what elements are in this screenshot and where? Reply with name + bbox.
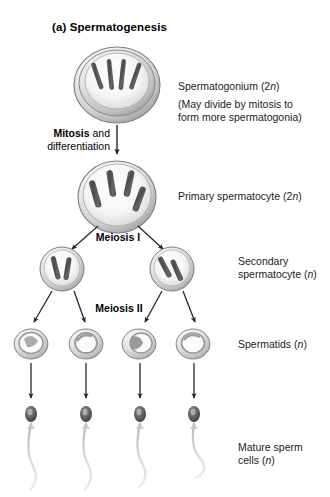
label-mature-sperm: Mature spermcells (n) xyxy=(238,441,303,466)
label-spermatogonium-note: (May divide by mitosis to form more sper… xyxy=(178,98,302,123)
cell-mature-sperm-2 xyxy=(80,406,92,489)
cell-primary-spermatocyte xyxy=(78,161,156,233)
label-meiosis-one: Meiosis I xyxy=(88,231,148,243)
label-primary-spermatocyte: Primary spermatocyte (2n) xyxy=(178,190,302,203)
cell-spermatogonium xyxy=(74,47,160,123)
label-mitosis-differentiation: Mitosis anddifferentiation xyxy=(18,127,110,152)
label-secondary-spermatocyte: Secondaryspermatocyte (n) xyxy=(238,255,317,280)
cell-spermatid-4 xyxy=(176,329,210,359)
cell-spermatid-2 xyxy=(69,329,103,359)
cell-mature-sperm-3 xyxy=(134,406,146,487)
arrow-meiosis2-d xyxy=(183,291,195,322)
cell-mature-sperm-1 xyxy=(25,406,37,490)
diagram-canvas xyxy=(0,0,330,497)
label-spermatids: Spermatids (n) xyxy=(238,338,307,351)
spermatogenesis-figure: (a) Spermatogenesis xyxy=(0,0,330,497)
cell-spermatid-1 xyxy=(14,329,48,359)
label-spermatogonium: Spermatogonium (2n) xyxy=(178,80,280,93)
cell-secondary-spermatocyte-right xyxy=(150,247,194,291)
label-meiosis-two: Meiosis II xyxy=(88,302,150,314)
cell-spermatid-3 xyxy=(122,329,156,359)
arrow-meiosis2-b xyxy=(74,291,85,322)
arrow-meiosis2-a xyxy=(34,291,52,322)
cell-mature-sperm-4 xyxy=(188,406,204,478)
cell-secondary-spermatocyte-left xyxy=(40,247,84,291)
